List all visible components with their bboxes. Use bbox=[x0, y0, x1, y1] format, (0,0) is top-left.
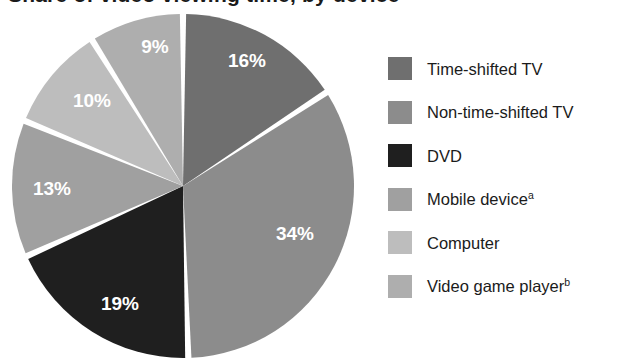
legend-item[interactable]: Video game playerb bbox=[388, 265, 616, 309]
pie-slice-value-label: 34% bbox=[276, 223, 314, 244]
pie-slice-value-label: 9% bbox=[141, 36, 169, 57]
pie-slice-value-label: 10% bbox=[73, 90, 111, 111]
legend-item[interactable]: Computer bbox=[388, 221, 616, 265]
pie-slice-value-label: 19% bbox=[101, 293, 139, 314]
legend-item[interactable]: Mobile devicea bbox=[388, 178, 616, 222]
legend-color-swatch bbox=[388, 101, 412, 124]
legend-item-label: Non-time-shifted TV bbox=[427, 104, 573, 121]
legend-item-label: Time-shifted TV bbox=[427, 61, 543, 78]
legend-item-label: Computer bbox=[427, 235, 499, 252]
chart-title-text: Share of video viewing time, by device bbox=[8, 0, 400, 7]
legend-item-label: Mobile devicea bbox=[427, 191, 534, 208]
pie-svg: 16%34%19%13%10%9% bbox=[0, 0, 380, 364]
legend-item[interactable]: Time-shifted TV bbox=[388, 47, 616, 91]
legend-footnote-marker: b bbox=[564, 276, 570, 288]
legend-color-swatch bbox=[388, 231, 412, 254]
legend-color-swatch bbox=[388, 144, 412, 167]
legend-color-swatch bbox=[388, 188, 412, 211]
pie-chart-figure: Share of video viewing time, by device 1… bbox=[0, 0, 620, 364]
pie-plot-area: 16%34%19%13%10%9% bbox=[0, 0, 380, 364]
pie-slice-value-label: 13% bbox=[33, 178, 71, 199]
legend-footnote-marker: a bbox=[528, 189, 534, 201]
pie-slice-value-label: 16% bbox=[228, 50, 266, 71]
legend-item[interactable]: Non-time-shifted TV bbox=[388, 91, 616, 135]
legend-color-swatch bbox=[388, 275, 412, 298]
legend-color-swatch bbox=[388, 57, 412, 80]
legend-item-label: DVD bbox=[427, 148, 462, 165]
legend-item-label: Video game playerb bbox=[427, 278, 570, 295]
chart-title-clipped: Share of video viewing time, by device bbox=[0, 0, 620, 11]
chart-legend: Time-shifted TVNon-time-shifted TVDVDMob… bbox=[388, 47, 616, 308]
legend-item[interactable]: DVD bbox=[388, 134, 616, 178]
